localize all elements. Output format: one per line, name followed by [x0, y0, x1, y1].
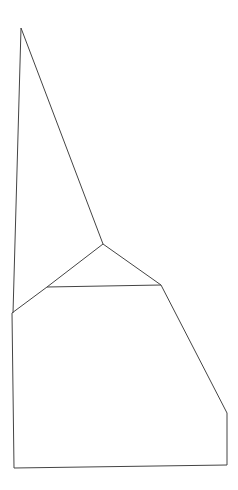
right-slope	[161, 285, 227, 465]
bottom-edge	[14, 465, 227, 468]
inner-right-edge	[103, 244, 161, 285]
inner-base	[47, 285, 161, 287]
line-drawing	[0, 0, 238, 490]
peak-right-edge	[21, 28, 103, 244]
left-wall	[12, 313, 14, 468]
peak-left-edge	[13, 28, 21, 313]
inner-left-edge	[12, 244, 103, 313]
